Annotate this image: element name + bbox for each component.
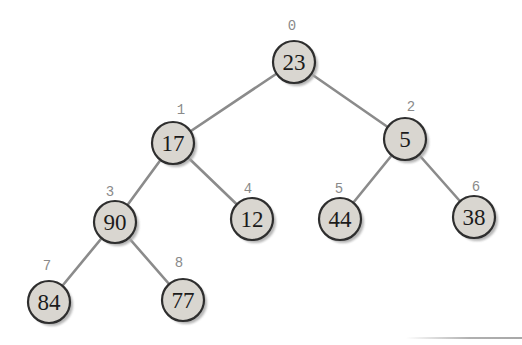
tree-node-3: 903 (94, 184, 139, 246)
node-index-label: 8 (175, 255, 183, 271)
node-index-label: 6 (472, 179, 480, 195)
tree-node-4: 124 (231, 181, 276, 243)
node-value: 90 (104, 210, 127, 235)
tree-node-0: 230 (273, 18, 318, 86)
tree-node-8: 778 (162, 255, 207, 324)
tree-node-1: 171 (152, 102, 197, 167)
node-index-label: 0 (288, 18, 296, 34)
tree-node-2: 52 (384, 99, 429, 163)
node-value: 44 (329, 207, 353, 232)
node-index-label: 7 (43, 258, 51, 274)
node-index-label: 2 (407, 99, 415, 115)
tree-canvas: 23017152903124445386847778 (0, 0, 522, 345)
tree-node-5: 445 (319, 181, 364, 243)
node-value: 12 (241, 207, 264, 232)
page-edge-artifact (406, 337, 522, 339)
tree-node-7: 847 (28, 258, 73, 326)
node-index-label: 1 (177, 102, 185, 118)
tree-node-6: 386 (453, 179, 498, 241)
node-value: 17 (162, 131, 185, 156)
node-value: 84 (38, 290, 62, 315)
node-value: 77 (172, 288, 195, 313)
node-value: 5 (399, 127, 411, 152)
node-index-label: 4 (244, 181, 252, 197)
binary-tree-diagram: 23017152903124445386847778 (0, 0, 522, 345)
node-index-label: 5 (335, 181, 343, 197)
node-value: 23 (283, 50, 306, 75)
node-value: 38 (463, 205, 486, 230)
node-index-label: 3 (106, 184, 114, 200)
